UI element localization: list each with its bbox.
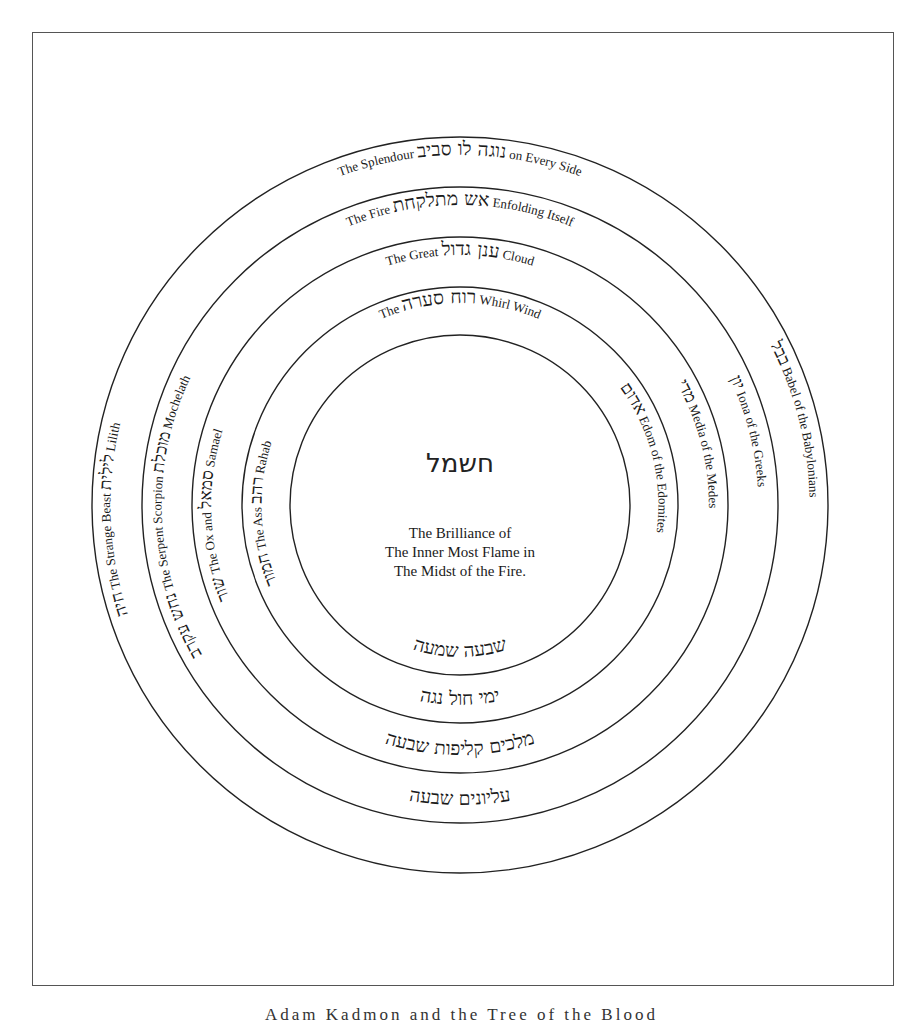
bottom-shell-label-1: מלכים קליפות שבעה <box>383 726 536 759</box>
left-shell-label-1: נחש עקרב The Serpent Scorpion מוכלת Moch… <box>147 372 205 662</box>
core-line-3: The Midst of the Fire. <box>330 562 590 581</box>
left-shell-label-2: שור The Ox and סמאל Samael <box>195 426 233 604</box>
ring-4 <box>290 335 630 675</box>
top-shell-label-0: The Splendour נוגה לו סביב on Every Side <box>336 137 585 179</box>
top-shell-label-1: The Fire אש מתלקחת Enfolding Itself <box>344 187 577 230</box>
core-line-2: The Inner Most Flame in <box>330 543 590 562</box>
bottom-shell-label-2: ימי חול נגה <box>419 683 502 709</box>
ring-1 <box>142 187 778 823</box>
right-shell-label-2: מדי Media of the Medes <box>673 376 721 509</box>
figure-caption: Adam Kadmon and the Tree of the Blood <box>0 1005 923 1024</box>
left-shell-label-0: חיה The Strange Beast לילית Lilith <box>95 420 132 619</box>
core-description: The Brilliance of The Inner Most Flame i… <box>330 524 590 581</box>
right-shell-label-1: יון Iona of the Greeks <box>726 372 769 488</box>
right-shell-label-3: אדום Edom of the Edomites <box>617 378 671 534</box>
top-shell-label-3: The רוח סערה Whirl Wind <box>377 285 544 322</box>
bottom-shell-label-0: עליונים שבעה <box>408 783 512 809</box>
core-line-1: The Brilliance of <box>330 524 590 543</box>
bottom-shell-label-3: שבעה שמעה <box>411 632 509 661</box>
right-shell-label-0: בבל Babel of the Babylonians <box>766 336 821 497</box>
core-hebrew-title: חשמל <box>360 448 560 478</box>
